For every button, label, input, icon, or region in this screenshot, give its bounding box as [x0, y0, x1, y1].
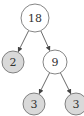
tree-node-3: 3	[65, 93, 84, 115]
tree-node-2: 2	[2, 51, 24, 73]
tree-edge	[60, 73, 70, 94]
tree-nodes: 182933	[2, 4, 84, 115]
node-label: 9	[52, 56, 59, 69]
node-label: 2	[10, 56, 17, 69]
tree-edge	[18, 31, 28, 52]
tree-node-18: 18	[21, 4, 49, 32]
node-label: 3	[31, 98, 38, 111]
node-label: 18	[28, 12, 42, 25]
tree-edge	[41, 31, 50, 50]
node-label: 3	[73, 98, 80, 111]
tree-node-3: 3	[23, 93, 45, 115]
tree-edge	[39, 73, 49, 94]
tree-diagram: 182933	[0, 0, 84, 116]
tree-node-9: 9	[43, 50, 67, 74]
